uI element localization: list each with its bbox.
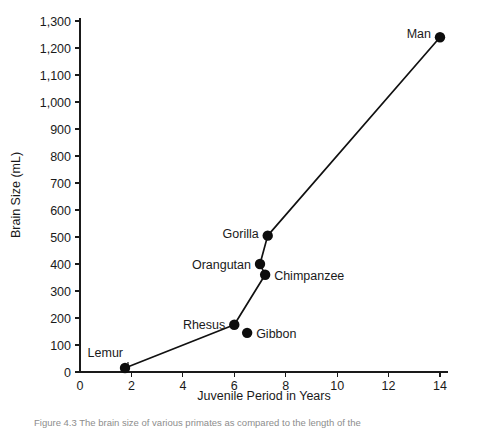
data-line-path [125, 37, 440, 368]
y-tick-label: 400 [50, 258, 71, 272]
point-label-lemur: Lemur [88, 346, 123, 360]
y-tick-label: 500 [50, 231, 71, 245]
point-label-chimpanzee: Chimpanzee [274, 269, 344, 283]
data-point-labels: LemurRhesusGibbonOrangutanChimpanzeeGori… [88, 27, 431, 360]
y-tick-label: 1,200 [40, 42, 71, 56]
data-point-man[interactable] [435, 32, 445, 42]
y-tick-label: 900 [50, 123, 71, 137]
x-tick-label: 4 [179, 379, 186, 393]
point-label-orangutan: Orangutan [192, 258, 251, 272]
y-tick-label: 600 [50, 204, 71, 218]
y-tick-label: 100 [50, 339, 71, 353]
data-point-markers [120, 32, 445, 373]
point-label-gibbon: Gibbon [256, 327, 296, 341]
y-tick-label: 1,300 [40, 15, 71, 29]
point-label-gorilla: Gorilla [223, 227, 259, 241]
y-tick-label: 1,000 [40, 96, 71, 110]
point-label-man: Man [407, 27, 431, 41]
data-point-rhesus[interactable] [229, 320, 239, 330]
x-tick-marks [131, 372, 440, 377]
data-point-orangutan[interactable] [255, 259, 265, 269]
x-tick-label: 2 [128, 379, 135, 393]
point-label-rhesus: Rhesus [183, 318, 225, 332]
y-tick-label: 0 [64, 366, 71, 380]
x-tick-label: 10 [330, 379, 344, 393]
data-point-lemur[interactable] [120, 363, 130, 373]
x-tick-label: 0 [77, 379, 84, 393]
x-tick-label: 14 [433, 379, 447, 393]
figure-caption: Figure 4.3 The brain size of various pri… [34, 417, 454, 428]
y-tick-marks [75, 21, 80, 372]
data-point-chimpanzee[interactable] [260, 270, 270, 280]
y-tick-label: 300 [50, 285, 71, 299]
y-tick-label: 200 [50, 312, 71, 326]
y-axis-group: 01002003004005006007008009001,0001,1001,… [40, 15, 80, 380]
data-point-gibbon[interactable] [242, 328, 252, 338]
data-point-gorilla[interactable] [263, 230, 273, 240]
y-axis-title: Brain Size (mL) [9, 152, 23, 238]
x-tick-label: 12 [382, 379, 396, 393]
y-tick-label: 1,100 [40, 69, 71, 83]
data-series-group: LemurRhesusGibbonOrangutanChimpanzeeGori… [88, 27, 446, 373]
y-tick-label: 800 [50, 150, 71, 164]
y-tick-label: 700 [50, 177, 71, 191]
y-tick-labels: 01002003004005006007008009001,0001,1001,… [40, 15, 71, 380]
x-axis-title: Juvenile Period in Years [197, 389, 330, 403]
